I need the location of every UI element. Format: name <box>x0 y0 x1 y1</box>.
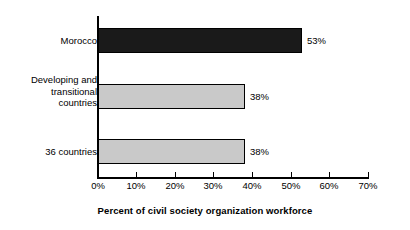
x-tick-label: 30% <box>193 181 233 191</box>
category-label-developing-and-transitional-countries: Developing and transitional countries <box>7 74 97 109</box>
x-tick-label: 0% <box>78 181 118 191</box>
x-tick-mark <box>252 172 253 178</box>
bar-value-label: 53% <box>307 36 326 46</box>
x-axis-title: Percent of civil society organization wo… <box>0 205 410 216</box>
bar-value-label: 38% <box>250 92 269 102</box>
x-tick-label: 40% <box>232 181 272 191</box>
category-label-morocco: Morocco <box>7 35 97 47</box>
x-tick-mark <box>98 172 99 178</box>
bar-value-label: 38% <box>250 147 269 157</box>
x-tick-mark <box>213 172 214 178</box>
x-tick-mark <box>136 172 137 178</box>
x-tick-label: 50% <box>271 181 311 191</box>
x-tick-mark <box>329 172 330 178</box>
bar-36-countries <box>98 139 245 164</box>
x-tick-label: 20% <box>155 181 195 191</box>
bar-morocco <box>98 28 302 53</box>
x-tick-mark <box>368 172 369 178</box>
bar-chart: 53% 38% 38% Morocco Developing and trans… <box>0 0 410 230</box>
x-tick-label: 10% <box>116 181 156 191</box>
x-tick-label: 60% <box>309 181 349 191</box>
plot-area: 53% 38% 38% Morocco Developing and trans… <box>0 0 410 230</box>
category-label-36-countries: 36 countries <box>7 146 97 158</box>
x-tick-mark <box>175 172 176 178</box>
x-tick-label: 70% <box>348 181 388 191</box>
x-tick-mark <box>291 172 292 178</box>
bar-developing-and-transitional-countries <box>98 84 245 109</box>
